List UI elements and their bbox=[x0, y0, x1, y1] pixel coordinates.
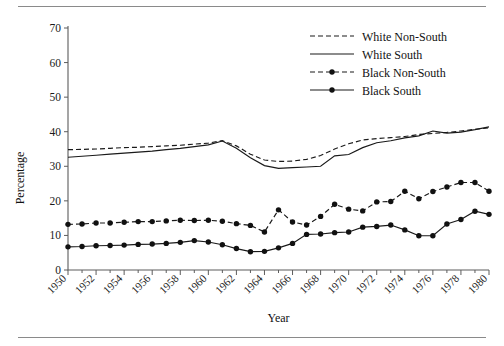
x-axis-tick-label-group: 1978 bbox=[437, 272, 461, 296]
series-marker-black-south bbox=[150, 241, 155, 246]
series-marker-black-south bbox=[220, 242, 225, 247]
series-marker-black-south bbox=[444, 221, 449, 226]
x-axis-tick-label: 1972 bbox=[353, 272, 377, 296]
legend-label: White South bbox=[362, 48, 422, 62]
series-line-white-south bbox=[68, 127, 489, 168]
series-marker-black-south bbox=[65, 244, 70, 249]
y-axis-tick-label: 10 bbox=[50, 229, 62, 241]
x-axis-tick-label-group: 1974 bbox=[381, 272, 405, 296]
series-marker-black-south bbox=[458, 217, 463, 222]
axis-lines bbox=[68, 26, 489, 270]
x-axis-tick-label: 1964 bbox=[241, 272, 265, 296]
y-axis-title: Percentage bbox=[13, 152, 27, 205]
top-divider-rule bbox=[18, 6, 486, 7]
series-marker-black-south bbox=[276, 245, 281, 250]
series-marker-black-non-south bbox=[220, 219, 225, 224]
chart-figure: 0102030405060701950195219541956195819601… bbox=[0, 0, 504, 346]
legend-marker bbox=[329, 69, 334, 74]
series-marker-black-non-south bbox=[444, 184, 449, 189]
series-marker-black-south bbox=[93, 243, 98, 248]
series-marker-black-non-south bbox=[430, 189, 435, 194]
x-axis-tick-label: 1980 bbox=[465, 272, 489, 296]
series-marker-black-south bbox=[332, 230, 337, 235]
x-axis-tick-label-group: 1952 bbox=[72, 272, 96, 296]
series-marker-black-south bbox=[121, 242, 126, 247]
series-marker-black-non-south bbox=[164, 218, 169, 223]
legend-label: Black Non-South bbox=[362, 66, 446, 80]
series-marker-black-non-south bbox=[486, 188, 491, 193]
x-axis-tick-label-group: 1970 bbox=[325, 272, 349, 296]
series-marker-black-non-south bbox=[107, 220, 112, 225]
series-marker-black-south bbox=[206, 239, 211, 244]
series-marker-black-non-south bbox=[234, 221, 239, 226]
x-axis-tick-label: 1970 bbox=[325, 272, 349, 296]
series-marker-black-non-south bbox=[318, 214, 323, 219]
y-axis-tick-label: 70 bbox=[50, 22, 62, 34]
x-axis-tick-label: 1954 bbox=[101, 272, 125, 296]
x-axis-tick-label: 1962 bbox=[213, 272, 237, 296]
x-axis-tick-label: 1960 bbox=[185, 272, 209, 296]
x-axis-tick-label-group: 1980 bbox=[465, 272, 489, 296]
series-marker-black-non-south bbox=[262, 229, 267, 234]
x-axis-tick-label-group: 1966 bbox=[269, 272, 293, 296]
series-marker-black-non-south bbox=[360, 208, 365, 213]
series-marker-black-south bbox=[402, 227, 407, 232]
x-axis-tick-label: 1952 bbox=[72, 272, 96, 296]
line-chart: 0102030405060701950195219541956195819601… bbox=[0, 0, 504, 346]
series-marker-black-non-south bbox=[93, 220, 98, 225]
series-marker-black-south bbox=[79, 244, 84, 249]
series-marker-black-south bbox=[318, 231, 323, 236]
legend-item[interactable]: White Non-South bbox=[310, 30, 447, 44]
x-axis-tick-label: 1950 bbox=[44, 272, 68, 296]
series-marker-black-south bbox=[360, 224, 365, 229]
bottom-divider-rule bbox=[18, 337, 486, 338]
y-axis-tick-label: 20 bbox=[50, 195, 62, 207]
series-marker-black-south bbox=[107, 243, 112, 248]
series-marker-black-non-south bbox=[290, 219, 295, 224]
series-marker-black-non-south bbox=[458, 180, 463, 185]
legend-item[interactable]: Black South bbox=[310, 84, 421, 98]
series-marker-black-south bbox=[472, 209, 477, 214]
series-marker-black-non-south bbox=[121, 220, 126, 225]
series-marker-black-south bbox=[304, 232, 309, 237]
series-marker-black-south bbox=[234, 246, 239, 251]
y-axis-tick-label: 30 bbox=[50, 160, 62, 172]
x-axis-tick-label-group: 1954 bbox=[101, 272, 125, 296]
series-marker-black-non-south bbox=[388, 199, 393, 204]
series-marker-black-non-south bbox=[135, 219, 140, 224]
series-marker-black-south bbox=[164, 241, 169, 246]
series-marker-black-non-south bbox=[416, 196, 421, 201]
x-axis-tick-label: 1956 bbox=[129, 272, 153, 296]
series-marker-black-non-south bbox=[206, 218, 211, 223]
series-marker-black-south bbox=[262, 249, 267, 254]
series-marker-black-non-south bbox=[150, 219, 155, 224]
x-axis-tick-label-group: 1956 bbox=[129, 272, 153, 296]
series-marker-black-non-south bbox=[472, 180, 477, 185]
series-marker-black-non-south bbox=[402, 188, 407, 193]
legend-item[interactable]: Black Non-South bbox=[310, 66, 446, 80]
series-marker-black-non-south bbox=[192, 218, 197, 223]
series-marker-black-non-south bbox=[276, 207, 281, 212]
x-axis-tick-label-group: 1964 bbox=[241, 272, 265, 296]
series-marker-black-non-south bbox=[346, 206, 351, 211]
x-axis-tick-label-group: 1972 bbox=[353, 272, 377, 296]
x-axis-tick-label-group: 1958 bbox=[157, 272, 181, 296]
series-marker-black-south bbox=[135, 242, 140, 247]
x-axis-title: Year bbox=[267, 311, 289, 325]
series-marker-black-non-south bbox=[304, 222, 309, 227]
x-axis-tick-label: 1958 bbox=[157, 272, 181, 296]
legend-item[interactable]: White South bbox=[310, 48, 422, 62]
x-axis-tick-label: 1968 bbox=[297, 272, 321, 296]
x-axis-tick-label: 1978 bbox=[437, 272, 461, 296]
x-axis-tick-label-group: 1976 bbox=[409, 272, 433, 296]
series-marker-black-south bbox=[430, 233, 435, 238]
series-marker-black-non-south bbox=[248, 223, 253, 228]
series-marker-black-south bbox=[178, 240, 183, 245]
series-marker-black-south bbox=[248, 249, 253, 254]
x-axis-tick-label-group: 1960 bbox=[185, 272, 209, 296]
legend-label: Black South bbox=[362, 84, 421, 98]
x-axis-tick-label: 1976 bbox=[409, 272, 433, 296]
legend-label: White Non-South bbox=[362, 30, 447, 44]
series-marker-black-south bbox=[290, 241, 295, 246]
x-axis-tick-label: 1974 bbox=[381, 272, 405, 296]
